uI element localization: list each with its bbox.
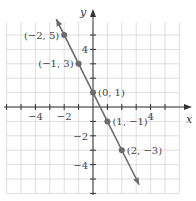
point-label: (2, −3) (127, 145, 162, 156)
y-tick-label: −2 (73, 131, 88, 142)
y-tick-label: 4 (82, 44, 88, 55)
x-tick-label: 4 (147, 111, 153, 122)
plotted-line (56, 19, 139, 185)
data-point (90, 90, 96, 96)
y-axis-arrow-icon (90, 9, 96, 17)
data-point (76, 61, 82, 67)
data-point (104, 118, 110, 124)
point-label: (−2, 5) (24, 30, 59, 41)
x-tick-label: −2 (57, 111, 72, 122)
y-axis-label: y (79, 6, 87, 19)
point-label: (1, −1) (112, 116, 147, 127)
x-axis-label: x (186, 113, 193, 126)
coordinate-plane: −4−244−2−4 (−2, 5)(−1, 3)(0, 1)(1, −1)(2… (0, 0, 196, 201)
point-label: (0, 1) (98, 87, 125, 98)
data-point (119, 147, 125, 153)
x-axis-arrow-icon (184, 104, 192, 110)
y-tick-label: −4 (73, 160, 88, 171)
point-label: (−1, 3) (38, 58, 73, 69)
data-point (61, 32, 67, 38)
line-y-equals-neg2x-plus-1 (56, 19, 139, 185)
x-tick-label: −4 (28, 111, 43, 122)
